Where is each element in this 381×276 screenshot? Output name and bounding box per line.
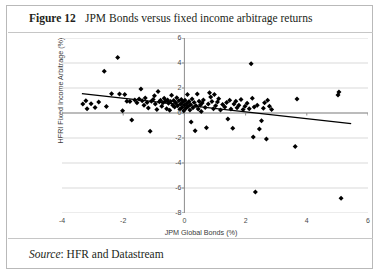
data-point-marker (259, 118, 264, 123)
data-point-marker (129, 117, 134, 122)
data-point-marker (80, 102, 85, 107)
y-tick-label: 0 (165, 109, 181, 116)
data-point-marker (156, 89, 161, 94)
y-tick-label: -6 (165, 184, 181, 191)
data-point-marker (207, 90, 212, 95)
y-tick-label: -2 (165, 134, 181, 141)
chart-plot-area: HFRI Fixed Income Arbitrage (%) JPM Glob… (31, 36, 371, 236)
data-point-marker (264, 137, 269, 142)
scatter-canvas (62, 38, 368, 213)
data-point-marker (295, 97, 300, 102)
data-point-marker (109, 91, 114, 96)
data-point-marker (152, 93, 157, 98)
data-point-marker (122, 92, 127, 97)
data-point-marker (293, 144, 298, 149)
data-point-marker (208, 95, 213, 100)
data-point-marker (104, 104, 109, 109)
figure-number: Figure 12 (29, 12, 76, 24)
x-tick-label: 4 (299, 217, 315, 224)
data-point-marker (93, 105, 98, 110)
source-note: Source: HFR and Datastream (29, 248, 164, 260)
data-point-marker (195, 92, 200, 97)
data-point-marker (146, 106, 151, 111)
data-point-marker (230, 126, 235, 131)
x-tick-label: 6 (360, 217, 376, 224)
data-point-marker (154, 107, 159, 112)
data-point-marker (96, 100, 101, 105)
data-point-marker (253, 190, 258, 195)
figure-caption: JPM Bonds versus fixed income arbitrage … (85, 12, 312, 24)
data-point-marker (102, 69, 107, 74)
data-point-marker (85, 106, 90, 111)
figure-container: Figure 12 JPM Bonds versus fixed income … (6, 5, 373, 269)
data-point-marker (117, 92, 122, 97)
x-tick-label: 2 (238, 217, 254, 224)
source-keyword: Source (29, 248, 61, 260)
y-tick-label: 6 (165, 34, 181, 41)
data-point-marker (148, 129, 153, 134)
x-axis-title: JPM Global Bonds (%) (31, 228, 371, 237)
y-tick-label: 4 (165, 59, 181, 66)
data-point-marker (185, 92, 190, 97)
x-tick-label: -2 (115, 217, 131, 224)
data-point-marker (261, 106, 266, 111)
source-divider (8, 238, 373, 239)
data-point-marker (225, 117, 230, 122)
data-point-marker (206, 102, 211, 107)
data-point-marker (249, 61, 254, 66)
data-point-marker (83, 98, 88, 103)
data-point-marker (209, 99, 214, 104)
data-point-marker (193, 128, 198, 133)
data-point-marker (339, 196, 344, 201)
y-tick-label: -4 (165, 159, 181, 166)
data-point-marker (189, 120, 194, 125)
y-tick-label: -8 (165, 209, 181, 216)
data-point-marker (239, 97, 244, 102)
data-point-marker (89, 101, 94, 106)
scatter-chart-svg (62, 38, 368, 213)
data-point-marker (138, 87, 143, 92)
data-point-marker (250, 96, 255, 101)
y-tick-label: 2 (165, 84, 181, 91)
data-point-marker (204, 125, 209, 130)
data-point-marker (212, 92, 217, 97)
x-tick-label: 0 (176, 217, 192, 224)
data-point-marker (247, 106, 252, 111)
data-point-marker (115, 55, 120, 60)
data-point-marker (257, 127, 262, 132)
data-point-marker (251, 135, 256, 140)
source-value: : HFR and Datastream (61, 248, 164, 260)
x-tick-label: -4 (54, 217, 70, 224)
data-point-marker (169, 93, 174, 98)
